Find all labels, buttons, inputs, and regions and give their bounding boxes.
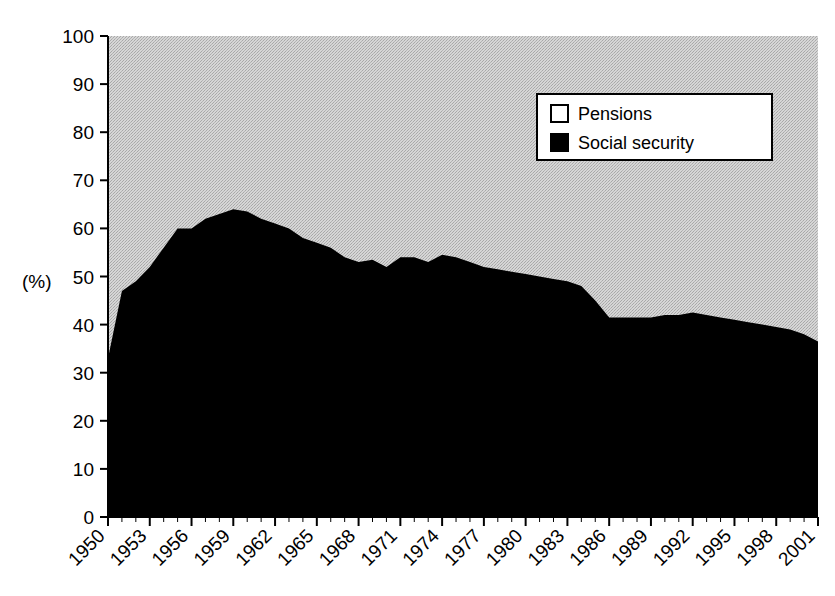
x-tick-label: 1968 (315, 525, 360, 570)
x-axis-labels: 1950195319561959196219651968197119741977… (64, 525, 819, 570)
y-tick-label: 60 (73, 218, 94, 239)
x-tick-label: 1965 (273, 525, 318, 570)
x-tick-label: 1977 (440, 525, 485, 570)
legend-label-social-security: Social security (578, 133, 694, 153)
x-tick-label: 1986 (565, 525, 610, 570)
chart-container: 0102030405060708090100 19501953195619591… (0, 0, 835, 596)
legend-label-pensions: Pensions (578, 104, 652, 124)
x-tick-label: 2001 (774, 525, 819, 570)
y-tick-label: 70 (73, 170, 94, 191)
y-tick-label: 80 (73, 122, 94, 143)
x-tick-label: 1953 (106, 525, 151, 570)
chart-legend: Pensions Social security (537, 94, 772, 160)
x-tick-label: 1950 (64, 525, 109, 570)
x-tick-label: 1992 (649, 525, 694, 570)
y-axis-ticks: 0102030405060708090100 (62, 26, 108, 528)
y-tick-label: 90 (73, 74, 94, 95)
y-tick-label: 20 (73, 411, 94, 432)
x-tick-label: 1983 (523, 525, 568, 570)
x-tick-label: 1989 (607, 525, 652, 570)
x-axis-ticks (108, 517, 818, 526)
x-tick-label: 1962 (231, 525, 276, 570)
legend-swatch-pensions (551, 105, 568, 122)
y-tick-label: 0 (83, 507, 94, 528)
area-chart: 0102030405060708090100 19501953195619591… (0, 0, 835, 596)
x-tick-label: 1971 (356, 525, 401, 570)
y-axis-unit-label: (%) (22, 271, 52, 292)
y-tick-label: 50 (73, 267, 94, 288)
x-tick-label: 1998 (732, 525, 777, 570)
x-tick-label: 1956 (148, 525, 193, 570)
y-tick-label: 30 (73, 363, 94, 384)
y-tick-label: 10 (73, 459, 94, 480)
y-tick-label: 40 (73, 315, 94, 336)
x-tick-label: 1974 (398, 525, 443, 570)
x-tick-label: 1995 (691, 525, 736, 570)
x-tick-label: 1980 (482, 525, 527, 570)
legend-swatch-social-security (551, 134, 568, 151)
y-tick-label: 100 (62, 26, 94, 47)
x-tick-label: 1959 (189, 525, 234, 570)
